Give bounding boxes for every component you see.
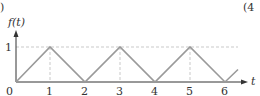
y-tick-1: 1 bbox=[5, 42, 12, 53]
triangle-wave-plot bbox=[0, 0, 260, 96]
panel-label-right: (4 bbox=[243, 2, 254, 13]
x-tick-0: 0 bbox=[6, 86, 13, 96]
x-axis-label: t bbox=[251, 76, 255, 87]
wave-line bbox=[16, 47, 238, 82]
dashed-guides bbox=[16, 47, 238, 82]
x-axis-arrow-icon bbox=[241, 80, 248, 85]
x-tick-1: 1 bbox=[46, 86, 53, 96]
x-tick-4: 4 bbox=[151, 86, 158, 96]
y-axis-arrow-icon bbox=[14, 30, 19, 37]
panel-label-left: ) bbox=[0, 2, 4, 13]
x-tick-5: 5 bbox=[186, 86, 193, 96]
x-tick-2: 2 bbox=[81, 86, 88, 96]
y-axis-label: f(t) bbox=[8, 17, 25, 28]
x-tick-3: 3 bbox=[116, 86, 123, 96]
x-tick-6: 6 bbox=[221, 86, 228, 96]
